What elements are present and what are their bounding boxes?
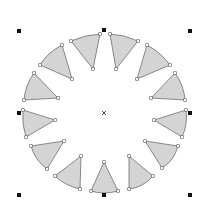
node-handle[interactable] (25, 136, 28, 139)
node-handle[interactable] (117, 190, 120, 193)
node-handle[interactable] (174, 72, 177, 75)
node-handle[interactable] (161, 167, 164, 170)
wedge-shape[interactable] (128, 155, 155, 191)
wedge-path[interactable] (71, 34, 100, 69)
node-handle[interactable] (177, 145, 180, 148)
node-handle[interactable] (61, 44, 64, 47)
resize-handle[interactable] (188, 111, 192, 115)
node-handle[interactable] (92, 68, 95, 71)
resize-handle[interactable] (102, 28, 106, 32)
wedge-shape[interactable] (109, 33, 140, 71)
wedge-shape[interactable] (30, 140, 66, 171)
node-handle[interactable] (128, 188, 131, 191)
wedge-path[interactable] (23, 110, 55, 137)
wedge-shape[interactable] (150, 72, 187, 102)
wedge-path[interactable] (31, 141, 64, 169)
node-handle[interactable] (80, 155, 83, 158)
node-handle[interactable] (46, 168, 49, 171)
wedge-path[interactable] (40, 45, 72, 79)
wedge-path[interactable] (137, 45, 170, 79)
node-handle[interactable] (71, 78, 74, 81)
node-handle[interactable] (144, 140, 147, 143)
node-handle[interactable] (63, 140, 66, 143)
node-handle[interactable] (115, 68, 118, 71)
node-handle[interactable] (150, 97, 153, 100)
wedge-path[interactable] (91, 162, 118, 193)
wedge-shape[interactable] (153, 109, 188, 139)
wedge-path[interactable] (151, 73, 185, 100)
wedge-path[interactable] (110, 34, 138, 69)
node-handle[interactable] (136, 78, 139, 81)
resize-handle[interactable] (188, 193, 192, 197)
node-handle[interactable] (146, 44, 149, 47)
node-handle[interactable] (109, 33, 112, 36)
resize-handle[interactable] (188, 29, 192, 33)
wedge-shape[interactable] (136, 44, 172, 81)
node-handle[interactable] (23, 99, 26, 102)
wedge-path[interactable] (55, 156, 81, 189)
resize-handle[interactable] (17, 111, 21, 115)
node-handle[interactable] (181, 136, 184, 139)
wedge-shape[interactable] (70, 33, 102, 71)
node-handle[interactable] (185, 109, 188, 112)
wedge-path[interactable] (24, 73, 58, 100)
resize-handle[interactable] (17, 29, 21, 33)
wedge-path[interactable] (145, 141, 178, 168)
node-handle[interactable] (70, 40, 73, 43)
node-handle[interactable] (153, 119, 156, 122)
node-handle[interactable] (30, 145, 33, 148)
node-handle[interactable] (90, 190, 93, 193)
drawing-canvas[interactable] (0, 0, 207, 213)
resize-handle[interactable] (102, 193, 106, 197)
node-handle[interactable] (184, 99, 187, 102)
wedge-shape[interactable] (54, 155, 83, 191)
wedge-shape[interactable] (22, 109, 57, 139)
node-handle[interactable] (33, 72, 36, 75)
wedge-shape[interactable] (39, 44, 74, 81)
node-handle[interactable] (54, 175, 57, 178)
node-handle[interactable] (99, 33, 102, 36)
wedge-shape[interactable] (23, 72, 60, 102)
node-handle[interactable] (152, 175, 155, 178)
node-handle[interactable] (128, 155, 131, 158)
node-handle[interactable] (137, 40, 140, 43)
node-handle[interactable] (22, 109, 25, 112)
rotation-center-icon[interactable] (102, 111, 106, 115)
node-handle[interactable] (103, 161, 106, 164)
wedge-shape[interactable] (144, 140, 180, 170)
resize-handle[interactable] (17, 193, 21, 197)
node-handle[interactable] (54, 119, 57, 122)
wedge-path[interactable] (154, 110, 187, 137)
node-handle[interactable] (169, 64, 172, 67)
node-handle[interactable] (79, 188, 82, 191)
wedge-path[interactable] (129, 156, 153, 189)
node-handle[interactable] (39, 64, 42, 67)
node-handle[interactable] (57, 97, 60, 100)
wedge-shape[interactable] (90, 161, 120, 193)
